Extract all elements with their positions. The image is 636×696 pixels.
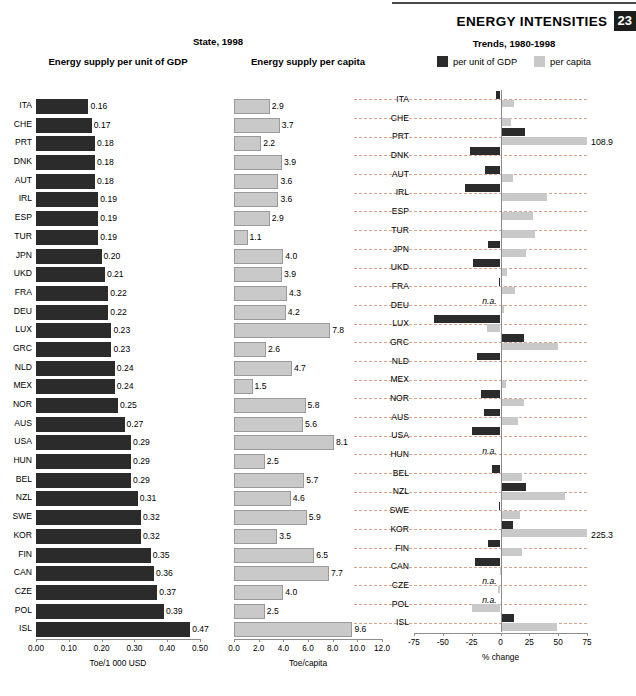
tick-mark <box>283 639 284 642</box>
category-label: NZL <box>393 482 409 501</box>
tick-label: 0.50 <box>192 644 208 653</box>
trend-bar-gdp <box>501 614 514 622</box>
bar-value-label: 1.1 <box>248 230 262 245</box>
bar <box>234 230 248 245</box>
bar-row: NOR0.25 <box>36 395 200 414</box>
bar <box>36 604 164 619</box>
trend-bar-capita <box>501 268 508 276</box>
bar-row: DEU0.22 <box>36 302 200 321</box>
axis-trends: -75-50-250255075% change <box>414 633 587 667</box>
category-label: AUS <box>391 408 409 427</box>
gridline <box>354 249 587 250</box>
legend-swatch-gdp-icon <box>437 56 448 67</box>
axis-gdp: 0.000.100.200.300.400.50Toe/1 000 USD <box>36 639 200 673</box>
category-label: CAN <box>14 563 32 582</box>
category-label: HUN <box>13 451 32 470</box>
category-label: KOR <box>13 526 32 545</box>
tick-mark <box>414 633 415 636</box>
page-title: ENERGY INTENSITIES <box>457 14 608 29</box>
bar <box>36 174 95 189</box>
gridline <box>354 286 587 287</box>
category-label: MEX <box>13 376 32 395</box>
bar-value-label: 4.2 <box>286 305 300 320</box>
trend-bar-capita <box>487 324 501 332</box>
gridline <box>354 380 587 381</box>
bar-value-label: 5.6 <box>303 417 317 432</box>
category-label: FRA <box>392 277 409 296</box>
tick-label: 0.00 <box>28 644 44 653</box>
tick-mark <box>36 639 37 642</box>
overflow-value-label: 225.3 <box>591 529 613 541</box>
bar <box>36 136 95 151</box>
gridline <box>354 473 587 474</box>
tick-mark <box>472 633 473 636</box>
bar-row: AUT0.18 <box>36 171 200 190</box>
header: ENERGY INTENSITIES 23 <box>380 10 636 32</box>
category-label: ISL <box>396 613 409 632</box>
header-rule <box>392 2 636 4</box>
bar-value-label: 0.23 <box>111 323 130 338</box>
bar-value-label: 3.6 <box>278 192 292 207</box>
bar-row: HUN0.29 <box>36 451 200 470</box>
category-label: DEU <box>391 296 409 315</box>
trend-bar-gdp <box>501 521 514 529</box>
bar-value-label: 4.3 <box>287 286 301 301</box>
axis-capita: 0.02.04.06.08.010.012.0Toe/capita <box>234 639 382 673</box>
bar-value-label: 0.24 <box>115 379 134 394</box>
trends-legend: per unit of GDP per capita <box>392 56 636 67</box>
bar-value-label: 0.36 <box>154 566 173 581</box>
bar-value-label: 3.9 <box>282 155 296 170</box>
bar-value-label: 5.7 <box>304 473 318 488</box>
bar <box>36 566 154 581</box>
tick-mark <box>587 633 588 636</box>
trend-bar-gdp <box>475 558 500 566</box>
bar <box>234 323 330 338</box>
trend-bar-gdp <box>470 147 501 155</box>
bar <box>234 249 283 264</box>
bar-value-label: 0.23 <box>111 342 130 357</box>
tick-mark <box>357 639 358 642</box>
trend-bar-gdp <box>488 241 501 249</box>
bar-value-label: 0.32 <box>141 529 160 544</box>
bar-row: TUR0.19 <box>36 227 200 246</box>
bar-value-label: 0.27 <box>125 417 144 432</box>
trend-bar-gdp <box>501 483 526 491</box>
tick-mark <box>69 639 70 642</box>
trend-bar-capita <box>501 193 547 201</box>
category-label: FIN <box>18 545 32 564</box>
bar <box>36 305 108 320</box>
category-label: ITA <box>19 96 32 115</box>
bar-value-label: 5.8 <box>306 398 320 413</box>
bar-row: KOR0.32 <box>36 526 200 545</box>
bar-value-label: 7.7 <box>329 566 343 581</box>
category-label: ESP <box>392 202 409 221</box>
category-label: HUN <box>390 445 409 464</box>
tick-mark <box>529 633 530 636</box>
axis-gdp-caption: Toe/1 000 USD <box>90 658 147 668</box>
bar-value-label: 0.17 <box>92 118 111 133</box>
bar <box>234 529 277 544</box>
bar-value-label: 0.29 <box>131 473 150 488</box>
trend-bar-capita <box>501 529 588 537</box>
bar-value-label: 2.9 <box>270 211 284 226</box>
category-label: LUX <box>392 314 409 333</box>
category-label: MEX <box>390 370 409 389</box>
tick-label: -25 <box>466 638 478 647</box>
legend-swatch-capita-icon <box>534 56 545 67</box>
axis-gdp-line <box>36 639 200 640</box>
trend-bar-capita <box>501 174 514 182</box>
gridline <box>354 99 587 100</box>
bar <box>234 211 270 226</box>
category-label: JPN <box>393 240 409 259</box>
bar-value-label: 3.6 <box>278 174 292 189</box>
bar <box>234 622 352 637</box>
bar-row: FIN0.35 <box>36 545 200 564</box>
bar-row: SWE0.32 <box>36 507 200 526</box>
tick-label: 0.0 <box>228 644 239 653</box>
category-label: AUS <box>14 414 32 433</box>
bar <box>234 342 266 357</box>
gridline <box>354 436 587 437</box>
tick-label: -75 <box>408 638 420 647</box>
category-label: USA <box>391 426 409 445</box>
bar <box>36 249 102 264</box>
